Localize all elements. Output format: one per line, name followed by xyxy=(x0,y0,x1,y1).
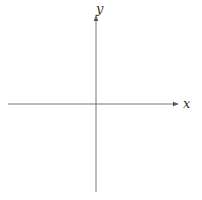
coordinate-axes: x y xyxy=(0,0,202,200)
y-axis-label: y xyxy=(95,1,104,16)
x-axis-label: x xyxy=(183,96,191,111)
